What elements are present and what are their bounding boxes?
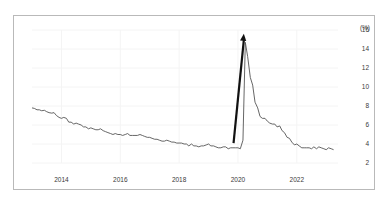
surge-arrow-head [240, 34, 246, 41]
y-axis-tick-label: 14 [362, 46, 369, 53]
plot-area [14, 16, 374, 189]
x-axis-tick-label: 2014 [54, 177, 68, 184]
x-axis-tick-label: 2020 [231, 177, 245, 184]
chart-figure: (%) 246810121416 20142016201820202022 [0, 0, 390, 210]
y-axis-tick-label: 6 [365, 122, 369, 129]
series-path [32, 42, 334, 149]
x-axis-tick-label: 2018 [172, 177, 186, 184]
y-axis-tick-label: 12 [362, 65, 369, 72]
x-axis-tick-label: 2022 [290, 177, 304, 184]
y-axis-tick-label: 8 [365, 103, 369, 110]
y-axis-tick-label: 4 [365, 141, 369, 148]
chart-svg [14, 16, 374, 189]
surge-arrow-shaft [234, 40, 244, 143]
chart-frame: (%) 246810121416 20142016201820202022 [13, 15, 375, 190]
data-series-line [32, 42, 334, 149]
y-axis-tick-label: 2 [365, 160, 369, 167]
y-axis-tick-label: 16 [362, 27, 369, 34]
x-axis-tick-label: 2016 [113, 177, 127, 184]
y-axis-tick-label: 10 [362, 84, 369, 91]
